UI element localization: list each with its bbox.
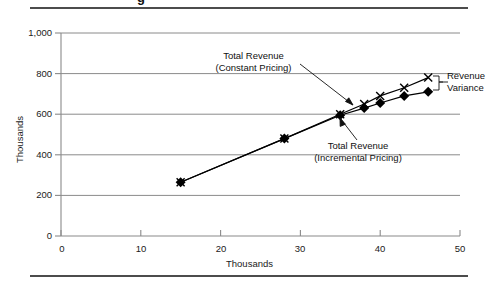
y-tick-label-1000: 1,000 [18,27,52,38]
annotation-constant-pricing-line2: (Constant Pricing) [201,62,306,74]
annotation-incremental-pricing: Total Revenue (Incremental Pricing) [297,140,419,163]
series-incremental-pricing-line [181,92,429,182]
y-tick-label-200: 200 [18,189,52,200]
x-tick-label-0: 0 [55,243,69,254]
y-ticks [55,33,61,236]
x-ticks [61,230,460,236]
x-axis-title: Thousands [226,258,273,269]
chart-figure: 1,000 800 600 400 200 0 0 10 20 30 40 50… [0,0,492,281]
y-tick-label-0: 0 [18,230,52,241]
annotation-revenue-variance-line1: Revenue [447,70,492,82]
annotation-incremental-pricing-line1: Total Revenue [297,140,419,152]
leader-line-constant-pricing [300,64,353,105]
annotation-incremental-pricing-line2: (Incremental Pricing) [297,152,419,164]
title-descender-fragment: g [137,0,145,5]
leader-line-incremental-pricing [340,118,357,140]
x-tick-label-50: 50 [453,243,467,254]
x-tick-label-20: 20 [214,243,228,254]
y-axis-title: Thousands [14,116,25,163]
x-tick-label-30: 30 [293,243,307,254]
annotation-constant-pricing-line1: Total Revenue [201,50,306,62]
y-tick-label-800: 800 [18,68,52,79]
revenue-variance-bracket [433,76,448,90]
x-tick-label-40: 40 [373,243,387,254]
annotation-constant-pricing: Total Revenue (Constant Pricing) [201,50,306,73]
series-incremental-pricing-markers [176,87,434,187]
annotation-revenue-variance-line2: Variance [447,82,492,94]
annotation-revenue-variance: Revenue Variance [447,70,492,93]
x-tick-label-10: 10 [134,243,148,254]
